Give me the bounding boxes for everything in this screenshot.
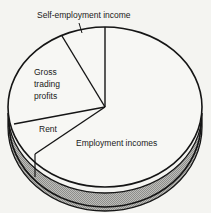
label-self-employment: Self-employment income xyxy=(37,10,131,20)
pie-chart: Self-employment income Gross trading pro… xyxy=(0,0,211,213)
label-rent: Rent xyxy=(39,124,57,134)
label-gross-trading-profits-line1: Gross xyxy=(34,67,57,77)
label-employment-incomes: Employment incomes xyxy=(76,138,157,148)
label-gross-trading-profits-line3: profits xyxy=(34,91,57,101)
label-gross-trading-profits-line2: trading xyxy=(34,79,60,89)
pie-chart-graphic xyxy=(0,0,211,213)
